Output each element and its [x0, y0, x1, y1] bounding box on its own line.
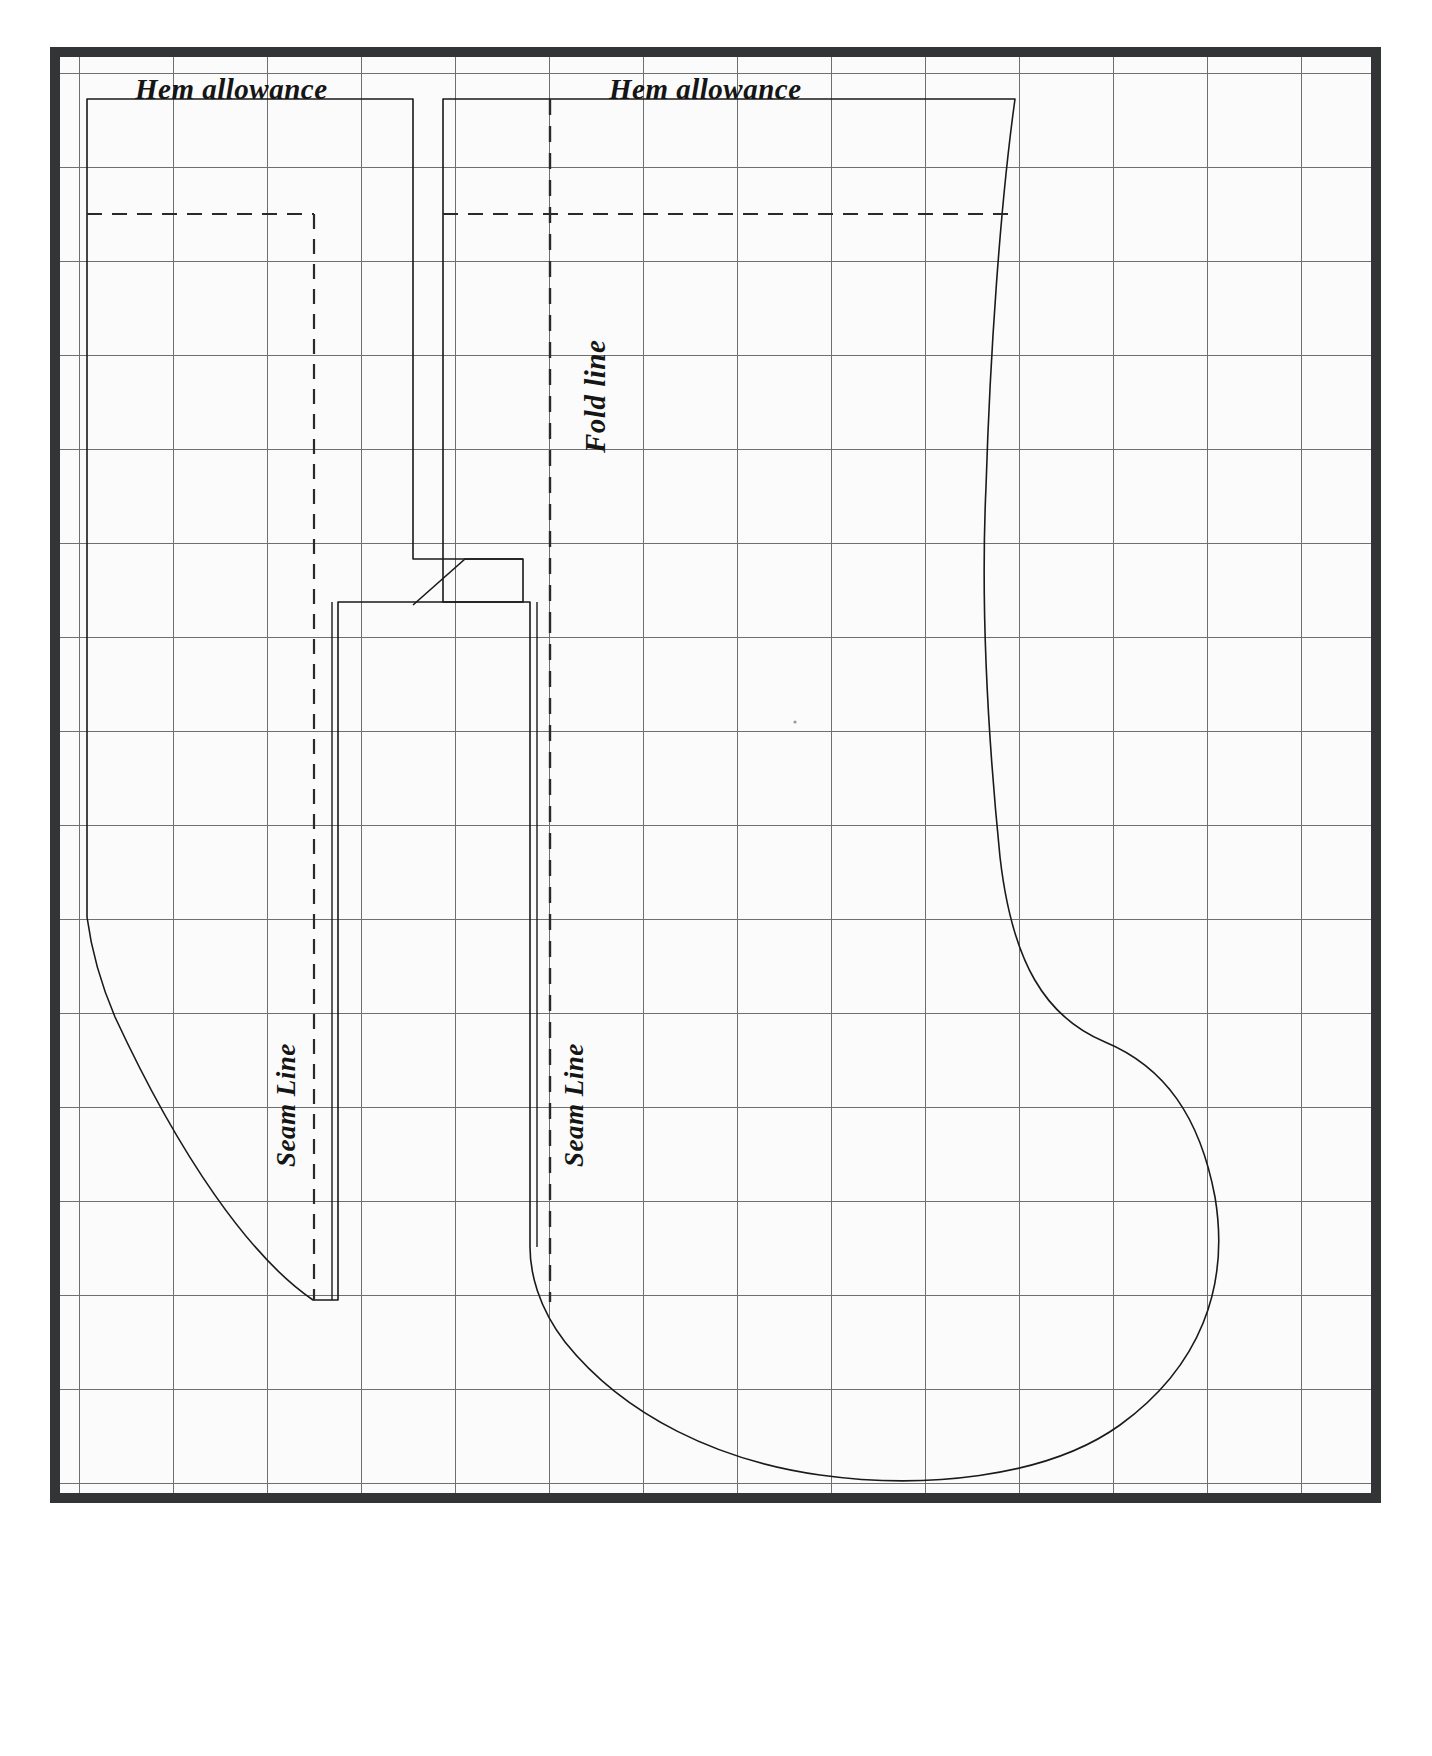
- pattern-sheet: Hem allowance Hem allowance Fold line Se…: [60, 57, 1371, 1493]
- label-hem-allowance-right: Hem allowance: [609, 73, 802, 106]
- label-seam-line-left: Seam Line: [271, 1043, 302, 1167]
- paper-speck: [793, 720, 796, 723]
- left-piece-wedge-line: [413, 559, 523, 605]
- label-seam-line-right: Seam Line: [559, 1043, 590, 1167]
- stocking-body-cut-line: [443, 99, 1219, 1481]
- pattern-frame-border: Hem allowance Hem allowance Fold line Se…: [50, 47, 1381, 1503]
- pattern-page: Hem allowance Hem allowance Fold line Se…: [0, 0, 1432, 1756]
- pattern-outline-layer: [60, 57, 1371, 1493]
- label-fold-line: Fold line: [579, 340, 612, 453]
- left-cuff-cut-line: [87, 99, 523, 1300]
- label-hem-allowance-left: Hem allowance: [135, 73, 328, 106]
